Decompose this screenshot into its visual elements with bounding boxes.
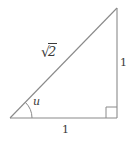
angle-label: u [33, 96, 40, 107]
radicand-value: 2 [48, 43, 57, 58]
angle-arc [25, 102, 32, 118]
hypotenuse-label: √2 [41, 43, 57, 59]
hypotenuse-line [10, 8, 117, 118]
right-triangle-figure: √2 u 1 1 [0, 0, 129, 145]
radical-expression: √2 [41, 43, 57, 59]
right-angle-marker [106, 107, 117, 118]
base-leg-label: 1 [62, 124, 69, 135]
vertical-leg-label: 1 [120, 57, 127, 68]
